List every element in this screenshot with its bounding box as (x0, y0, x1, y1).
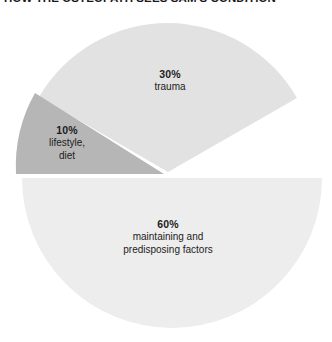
pie-label-lifestyle-diet-line2: diet (20, 150, 114, 163)
pie-label-lifestyle-diet-line1: lifestyle, (20, 137, 114, 150)
pie-label-maintaining-predisposing: 60% maintaining and predisposing factors (68, 218, 268, 256)
chart-area: 30% trauma 10% lifestyle, diet 60% maint… (0, 0, 332, 342)
pie-label-maintaining-predisposing-line1: maintaining and (68, 231, 268, 244)
pie-label-lifestyle-diet-percent: 10% (20, 124, 114, 137)
pie-label-maintaining-predisposing-line2: predisposing factors (68, 244, 268, 257)
pie-label-trauma: 30% trauma (112, 68, 228, 94)
pie-label-lifestyle-diet: 10% lifestyle, diet (20, 124, 114, 162)
pie-label-trauma-percent: 30% (112, 68, 228, 81)
pie-label-maintaining-predisposing-percent: 60% (68, 218, 268, 231)
pie-chart-figure: HOW THE OSTEOPATH SEES SAM'S CONDITION 3… (0, 0, 332, 342)
pie-label-trauma-text: trauma (112, 81, 228, 94)
pie-chart-svg (0, 0, 332, 342)
